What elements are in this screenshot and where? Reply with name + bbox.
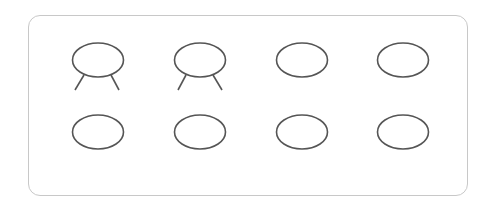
ellipse-grid <box>0 0 495 210</box>
ellipse-8 <box>378 115 429 149</box>
ellipse-7 <box>277 115 328 149</box>
ellipse-3 <box>277 43 328 77</box>
ellipse-with-legs-1 <box>73 43 124 90</box>
ellipse-with-legs-2 <box>175 43 226 90</box>
ellipse-5 <box>73 115 124 149</box>
ellipse-6 <box>175 115 226 149</box>
ellipse-4 <box>378 43 429 77</box>
